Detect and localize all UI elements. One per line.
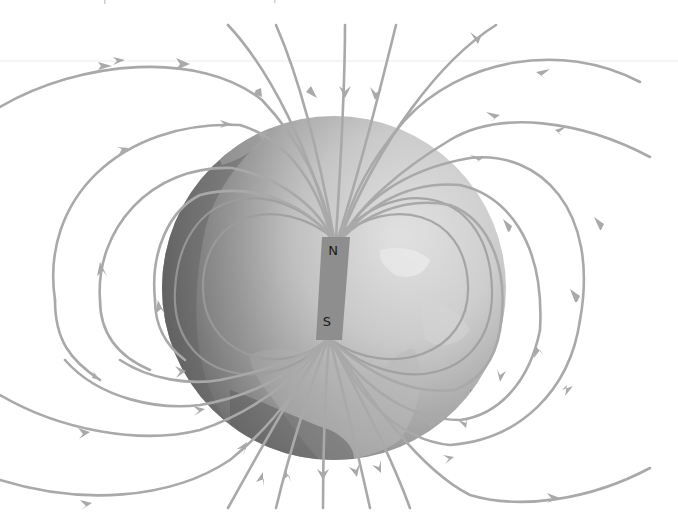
north-pole-label: N bbox=[328, 243, 338, 258]
magnetic-field-diagram: N S bbox=[0, 0, 678, 529]
cropped-text-fragments bbox=[104, 0, 276, 4]
continent-australia-edge bbox=[470, 385, 510, 430]
south-pole-label: S bbox=[323, 314, 331, 329]
